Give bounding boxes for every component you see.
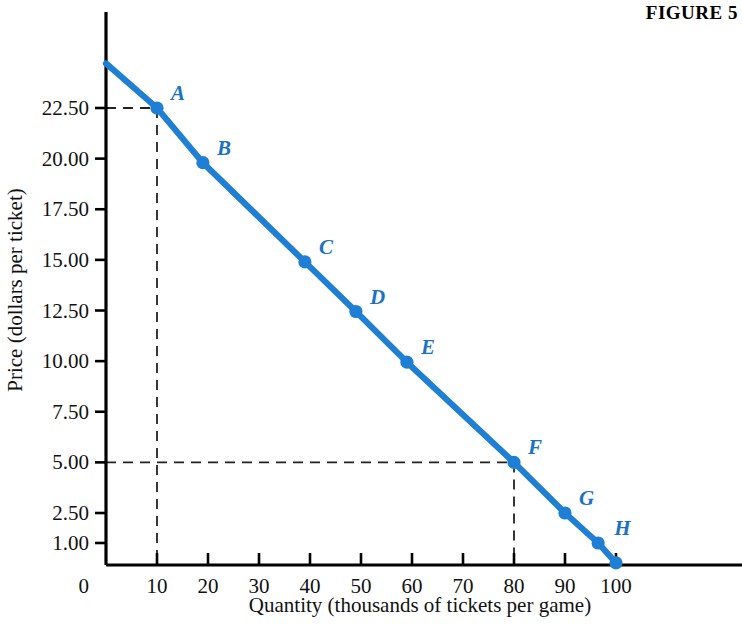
y-axis-tick-label: 1.00 xyxy=(52,531,89,555)
data-point-label: C xyxy=(319,235,334,259)
data-point-marker xyxy=(558,506,571,519)
data-point-marker xyxy=(592,536,605,549)
origin-label: 0 xyxy=(79,574,90,598)
x-axis-ticks: 102030405060708090100 xyxy=(147,553,632,598)
y-axis-tick-label: 20.00 xyxy=(42,147,89,171)
y-axis-tick-label: 22.50 xyxy=(42,96,89,120)
data-point-label: A xyxy=(169,81,185,105)
data-point-marker xyxy=(349,305,362,318)
figure-container: FIGURE 5 1.002.505.007.5010.0012.5015.00… xyxy=(0,0,742,626)
y-axis-tick-label: 2.50 xyxy=(52,501,89,525)
y-axis-tick-label: 7.50 xyxy=(52,400,89,424)
data-point-marker xyxy=(507,456,520,469)
y-axis-tick-label: 17.50 xyxy=(42,197,89,221)
x-axis-tick-label: 20 xyxy=(198,574,219,598)
demand-curve-chart: 1.002.505.007.5010.0012.5015.0017.5020.0… xyxy=(0,0,742,626)
data-point-marker xyxy=(298,255,311,268)
y-axis-title: Price (dollars per ticket) xyxy=(3,188,27,392)
point-labels-group: ABCDEFGH xyxy=(169,81,631,540)
data-point-label: E xyxy=(420,335,435,359)
x-axis-title: Quantity (thousands of tickets per game) xyxy=(249,593,591,617)
y-axis-tick-label: 15.00 xyxy=(42,248,89,272)
data-point-marker xyxy=(150,101,163,114)
y-axis-ticks: 1.002.505.007.5010.0012.5015.0017.5020.0… xyxy=(42,96,106,598)
y-axis-tick-label: 10.00 xyxy=(42,349,89,373)
data-point-marker xyxy=(609,556,622,569)
data-point-label: G xyxy=(579,486,594,510)
x-axis-tick-label: 10 xyxy=(147,574,168,598)
axes-group xyxy=(106,12,742,565)
dashed-guide-lines xyxy=(106,108,514,565)
data-point-marker xyxy=(196,156,209,169)
data-point-label: D xyxy=(369,285,385,309)
y-axis-tick-label: 5.00 xyxy=(52,450,89,474)
data-point-label: B xyxy=(216,136,231,160)
data-point-label: H xyxy=(613,516,631,540)
data-point-marker xyxy=(400,356,413,369)
data-point-label: F xyxy=(527,435,542,459)
y-axis-tick-label: 12.50 xyxy=(42,299,89,323)
x-axis-tick-label: 100 xyxy=(600,574,632,598)
